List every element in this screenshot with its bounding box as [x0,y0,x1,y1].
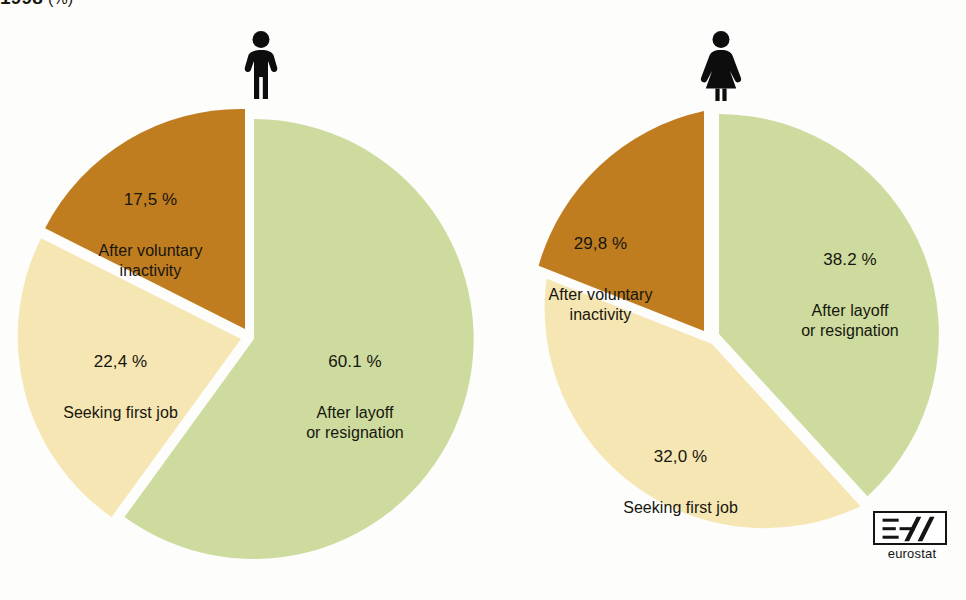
eurostat-logo-text: eurostat [873,546,951,561]
title-unit: (%) [48,0,73,7]
pie-chart-women [472,95,952,575]
chart-figure: 1998(%) 60.1 % After layoff or resignati… [0,0,966,600]
eurostat-logo-mark [873,511,947,545]
page-title: 1998(%) [0,0,400,9]
male-figure-icon [238,30,284,102]
pie-chart-men [8,95,488,575]
eurostat-logo: eurostat [873,511,951,569]
female-figure-icon [698,30,744,102]
title-year: 1998 [0,0,43,8]
